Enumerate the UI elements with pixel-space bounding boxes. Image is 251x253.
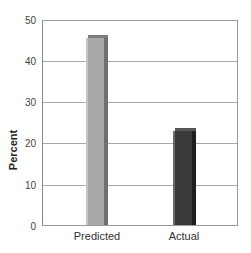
y-axis-label: Percent bbox=[7, 120, 19, 180]
y-tick-10: 10 bbox=[12, 180, 36, 191]
gridline-20 bbox=[43, 143, 237, 144]
y-tick-20: 20 bbox=[12, 138, 36, 149]
plot-area bbox=[42, 20, 238, 226]
bar-chart: Percent 0 10 20 30 40 50 Predicted Actua… bbox=[0, 0, 251, 253]
gridline-40 bbox=[43, 61, 237, 62]
y-tick-0: 0 bbox=[12, 221, 36, 232]
x-tick-predicted: Predicted bbox=[74, 230, 120, 242]
x-tick-actual: Actual bbox=[169, 230, 200, 242]
bar-predicted bbox=[86, 35, 108, 225]
gridline-10 bbox=[43, 185, 237, 186]
y-tick-50: 50 bbox=[12, 15, 36, 26]
gridline-30 bbox=[43, 102, 237, 103]
bar-actual bbox=[173, 128, 196, 225]
y-tick-40: 40 bbox=[12, 56, 36, 67]
y-tick-30: 30 bbox=[12, 97, 36, 108]
